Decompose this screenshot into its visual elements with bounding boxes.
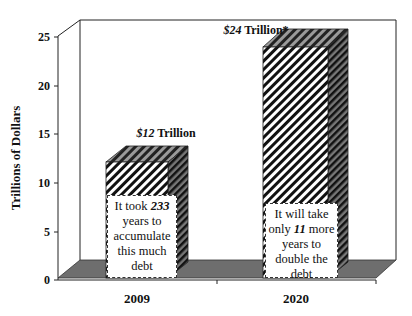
x-tick-2020: 2020 (283, 291, 309, 306)
y-axis: 0 5 10 15 20 25 Trillions of Dollars (8, 30, 58, 287)
annotation-2009: It took 233 years to accumulate this muc… (107, 195, 177, 278)
y-axis-label: Trillions of Dollars (8, 106, 23, 210)
y-tick-0: 0 (44, 273, 50, 287)
annotation-2020: It will take only 11 more years to doubl… (265, 203, 338, 278)
x-tick-2009: 2009 (124, 291, 151, 306)
emphasis-233: 233 (151, 199, 170, 213)
emphasis-11: 11 (294, 222, 306, 236)
y-tick-10: 10 (38, 176, 50, 190)
value-label-2009: $12 Trillion (135, 126, 196, 140)
y-tick-25: 25 (38, 30, 50, 44)
y-tick-5: 5 (44, 225, 50, 239)
y-tick-15: 15 (38, 127, 50, 141)
value-label-2020: $24 Trillion* (222, 23, 288, 37)
chart-canvas: 0 5 10 15 20 25 Trillions of Dollars $12… (0, 0, 412, 316)
y-tick-20: 20 (38, 79, 50, 93)
